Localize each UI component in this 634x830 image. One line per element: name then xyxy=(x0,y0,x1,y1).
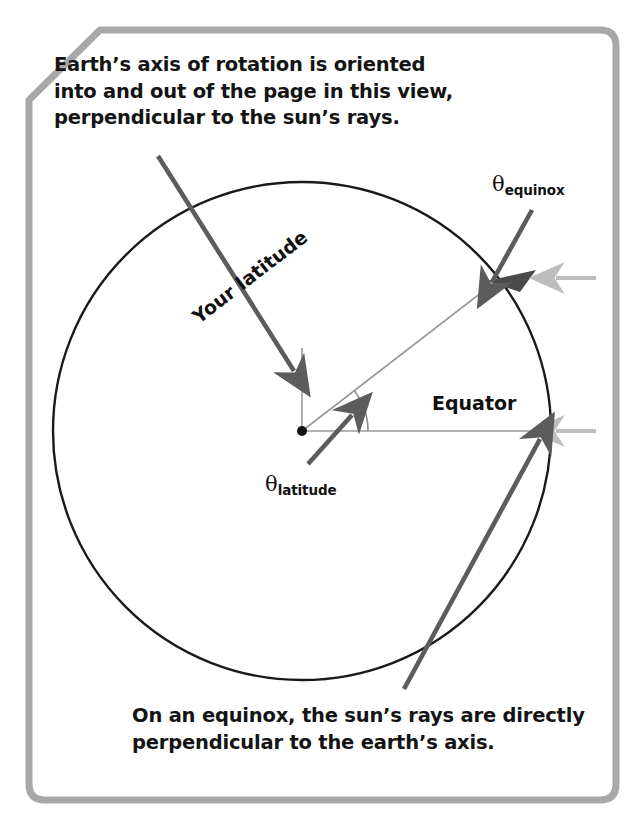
caption-equinox-rays: On an equinox, the sun’s rays are direct… xyxy=(132,702,602,756)
theta-subscript-latitude: latitude xyxy=(278,482,337,498)
earth-center-dot xyxy=(297,426,307,436)
latitude-angle-arc xyxy=(354,391,368,431)
caption-axis-orientation: Earth’s axis of rotation is oriented int… xyxy=(54,52,454,132)
label-theta-latitude: θlatitude xyxy=(265,472,337,498)
callout-arrow-equator-point xyxy=(404,439,540,689)
theta-symbol-latitude: θ xyxy=(265,472,278,496)
theta-subscript-equinox: equinox xyxy=(505,182,565,198)
callout-arrow-latitude xyxy=(308,415,352,464)
theta-symbol-equinox: θ xyxy=(492,172,505,196)
callout-arrow-equinox xyxy=(492,210,532,282)
label-theta-equinox: θequinox xyxy=(492,172,565,198)
label-equator: Equator xyxy=(432,392,516,414)
figure-canvas: Earth’s axis of rotation is oriented int… xyxy=(0,0,634,830)
